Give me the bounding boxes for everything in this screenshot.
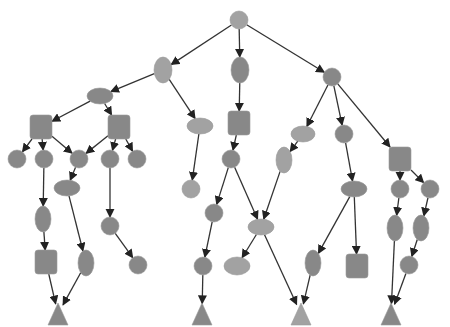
- edge-l4c-to-l4cc: [115, 233, 133, 257]
- node-l4c-circle: [101, 217, 119, 235]
- edge-l2-to-l2c: [43, 168, 44, 206]
- edge-a1a-to-l1: [22, 139, 32, 152]
- edge-c-to-c2: [334, 86, 342, 125]
- node-l5-circle: [128, 150, 146, 168]
- node-a2-ellipse: [187, 118, 213, 134]
- edge-c3b-to-c3bc: [424, 198, 428, 216]
- edge-a1b-to-l5: [126, 139, 133, 151]
- edge-b1a-to-b1l: [217, 168, 229, 205]
- node-c3b-circle: [421, 180, 439, 198]
- node-b1ll-circle: [194, 257, 212, 275]
- edge-c-to-c1: [307, 85, 328, 126]
- edge-b1l-to-b1ll: [205, 222, 212, 257]
- node-t2-triangle: [192, 303, 212, 325]
- node-l2c-ellipse: [35, 206, 51, 232]
- edge-c3bc-to-c3bcc: [412, 240, 417, 257]
- node-a2c-circle: [182, 180, 200, 198]
- node-root-circle: [230, 11, 248, 29]
- node-b-ellipse: [231, 57, 249, 83]
- node-a1b-square: [108, 115, 130, 139]
- edge-mid-to-t3: [265, 235, 297, 305]
- node-a1a-square: [30, 115, 52, 139]
- node-l2-circle: [35, 150, 53, 168]
- diagram-canvas: [0, 0, 450, 327]
- edge-l3cc-to-t1: [63, 273, 81, 305]
- node-c3bc-ellipse: [413, 215, 429, 241]
- edge-a-to-a1: [111, 74, 155, 92]
- edge-c3-to-c3b: [411, 170, 424, 183]
- edge-b1ll-to-t2: [202, 275, 203, 304]
- edge-b-to-b1: [239, 83, 240, 111]
- edge-root-to-a: [171, 25, 231, 65]
- edge-c3bcc-to-t4: [395, 273, 406, 304]
- edge-mid-to-midl: [242, 234, 256, 257]
- node-c2cl-ellipse: [305, 250, 321, 276]
- edge-a2-to-a2c: [192, 134, 199, 180]
- edge-c2-to-c2c: [346, 143, 353, 181]
- node-a-ellipse: [154, 57, 172, 83]
- edge-root-to-b: [239, 29, 240, 57]
- node-l4cc-circle: [129, 256, 147, 274]
- edge-l2c-to-l2cc: [44, 232, 45, 250]
- node-t4-triangle: [381, 303, 401, 325]
- node-l3c-ellipse: [54, 180, 80, 196]
- node-l2cc-square: [35, 250, 57, 274]
- node-l4-circle: [101, 150, 119, 168]
- node-t3-triangle: [291, 303, 311, 325]
- node-a1-ellipse: [87, 88, 113, 104]
- edge-c1-to-c1c: [290, 141, 298, 151]
- edge-c3ac-to-t4: [391, 241, 394, 304]
- edge-l2cc-to-t1: [49, 274, 56, 304]
- node-layer: [8, 11, 439, 325]
- node-mid-ellipse: [248, 219, 274, 235]
- node-l1-circle: [8, 150, 26, 168]
- edge-a1b-to-l3: [86, 136, 108, 154]
- node-l3-circle: [70, 150, 88, 168]
- node-c3-square: [389, 147, 411, 171]
- edge-a-to-a2: [169, 79, 195, 118]
- edge-l3c-to-l3cc: [69, 196, 83, 251]
- node-b1-square: [228, 111, 250, 135]
- edge-c2cl-to-t3: [303, 275, 310, 304]
- edge-a1-to-a1a: [52, 101, 90, 121]
- edge-a1-to-a1b: [105, 103, 112, 115]
- edge-a1a-to-l2: [42, 139, 43, 150]
- node-c1-ellipse: [291, 126, 315, 142]
- edge-l3-to-l3c: [70, 167, 75, 180]
- node-midl-ellipse: [224, 257, 250, 275]
- node-l3cc-ellipse: [78, 250, 94, 276]
- node-c3ac-ellipse: [387, 215, 403, 241]
- node-b1l-circle: [205, 204, 223, 222]
- node-c1c-ellipse: [276, 147, 292, 173]
- node-c2cr-square: [346, 254, 368, 278]
- edge-b1-to-b1a: [233, 135, 236, 150]
- edge-root-to-c: [247, 25, 325, 73]
- node-c2c-ellipse: [341, 181, 367, 197]
- node-c3a-circle: [391, 180, 409, 198]
- edge-c2c-to-c2cl: [318, 197, 349, 254]
- edge-c2c-to-c2cr: [354, 197, 356, 254]
- edge-b1a-to-mid: [235, 167, 258, 219]
- node-b1a-circle: [222, 150, 240, 168]
- node-c2-circle: [335, 125, 353, 143]
- edge-c3a-to-c3ac: [397, 198, 399, 215]
- node-c-circle: [323, 68, 341, 86]
- edge-a1a-to-l3: [52, 136, 72, 153]
- node-c3bcc-circle: [400, 256, 418, 274]
- node-t1-triangle: [48, 303, 68, 325]
- edge-c1c-to-mid: [264, 171, 280, 219]
- edge-a1b-to-l4: [112, 139, 115, 150]
- tree-diagram: [0, 0, 450, 327]
